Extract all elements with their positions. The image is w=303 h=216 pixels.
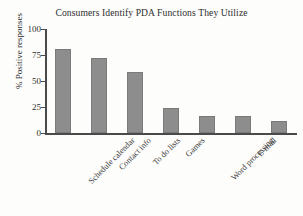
x-axis-category-label: To do lists: [151, 136, 182, 167]
bar-chart: Consumers Identify PDA Functions They Ut…: [0, 0, 303, 216]
bar: [163, 108, 179, 133]
bar: [199, 116, 215, 133]
x-axis-category-label: E-mail: [256, 136, 278, 158]
bar: [235, 116, 251, 133]
bar: [55, 49, 71, 133]
bar: [271, 121, 287, 133]
chart-title: Consumers Identify PDA Functions They Ut…: [0, 7, 303, 18]
x-axis-line: [45, 133, 297, 135]
y-tick-mark: [41, 107, 46, 108]
x-axis-category-label: Games: [184, 136, 207, 159]
y-tick-label: 75: [32, 50, 41, 60]
y-tick-mark: [41, 55, 46, 56]
y-tick-mark: [41, 133, 46, 134]
y-tick-mark: [41, 81, 46, 82]
plot-area: 0255075100: [45, 29, 297, 134]
y-tick-label: 25: [32, 102, 41, 112]
y-tick-label: 0: [37, 128, 42, 138]
bar: [91, 58, 107, 133]
y-tick-label: 50: [32, 76, 41, 86]
y-tick-mark: [41, 29, 46, 30]
bar: [127, 72, 143, 133]
y-tick-label: 100: [28, 24, 42, 34]
y-axis-label: % Positive responses: [14, 0, 24, 106]
